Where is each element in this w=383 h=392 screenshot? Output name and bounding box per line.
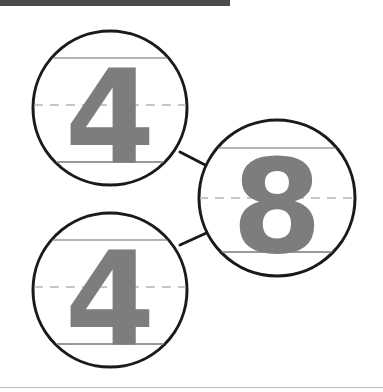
bubble-part-bottom[interactable]: 4 [33, 213, 187, 375]
bubble-part-top[interactable]: 4 [33, 31, 187, 193]
bubble-whole[interactable]: 8 [199, 120, 356, 283]
page-bottom-rule [0, 387, 383, 388]
bubble-digit-part-bottom: 4 [65, 223, 155, 375]
bubble-digit-part-top: 4 [65, 41, 155, 193]
bubble-digit-whole: 8 [232, 131, 322, 283]
worksheet-page: 4 4 8 [0, 0, 383, 392]
number-bond-diagram: 4 4 8 [0, 0, 383, 392]
